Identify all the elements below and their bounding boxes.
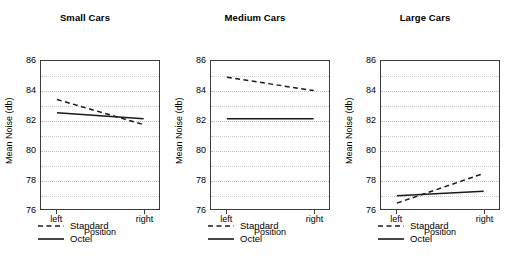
legend: StandardOctel xyxy=(206,219,336,245)
legend-item-octel: Octel xyxy=(206,232,336,245)
series-line-standard xyxy=(227,77,314,90)
plot-wrapper: Mean Noise (db)767880828486leftrightPosi… xyxy=(170,30,340,190)
panel-medium-cars: Medium CarsMean Noise (db)767880828486le… xyxy=(170,0,340,261)
legend-item-standard: Standard xyxy=(376,219,506,232)
plot-wrapper: Mean Noise (db)767880828486leftrightPosi… xyxy=(340,30,510,190)
panel-large-cars: Large CarsMean Noise (db)767880828486lef… xyxy=(340,0,510,261)
y-axis-tick-labels: 767880828486 xyxy=(16,60,38,210)
y-tick-label: 80 xyxy=(366,145,376,155)
plot-area xyxy=(210,60,330,210)
panel-title: Small Cars xyxy=(0,12,170,23)
legend-swatch-dashed xyxy=(376,221,406,231)
legend-label: Standard xyxy=(406,220,449,231)
legend-label: Octel xyxy=(236,233,262,244)
series-line-standard xyxy=(397,173,484,203)
legend-swatch-solid xyxy=(376,234,406,244)
series-lines xyxy=(381,61,499,209)
y-tick-label: 80 xyxy=(196,145,206,155)
y-tick-label: 82 xyxy=(26,115,36,125)
legend-label: Octel xyxy=(406,233,432,244)
y-tick-label: 82 xyxy=(196,115,206,125)
legend-item-standard: Standard xyxy=(36,219,166,232)
y-tick-label: 86 xyxy=(196,55,206,65)
legend-swatch-solid xyxy=(36,234,66,244)
y-tick-label: 76 xyxy=(196,205,206,215)
panel-title: Large Cars xyxy=(340,12,510,23)
y-tick-label: 84 xyxy=(26,85,36,95)
y-tick-label: 82 xyxy=(366,115,376,125)
y-tick-label: 78 xyxy=(366,175,376,185)
plot-wrapper: Mean Noise (db)767880828486leftrightPosi… xyxy=(0,30,170,190)
y-axis-tick-labels: 767880828486 xyxy=(356,60,378,210)
interaction-plot-figure: Small CarsMean Noise (db)767880828486lef… xyxy=(0,0,510,261)
y-tick-label: 78 xyxy=(26,175,36,185)
plot-area xyxy=(380,60,500,210)
legend: StandardOctel xyxy=(376,219,506,245)
series-line-octel xyxy=(397,191,484,195)
y-tick-label: 76 xyxy=(366,205,376,215)
series-lines xyxy=(41,61,159,209)
legend-item-octel: Octel xyxy=(36,232,166,245)
y-axis-title: Mean Noise (db) xyxy=(172,76,186,186)
series-line-standard xyxy=(57,99,144,124)
panel-small-cars: Small CarsMean Noise (db)767880828486lef… xyxy=(0,0,170,261)
legend: StandardOctel xyxy=(36,219,166,245)
y-tick-label: 86 xyxy=(366,55,376,65)
y-tick-label: 86 xyxy=(26,55,36,65)
panel-title: Medium Cars xyxy=(170,12,340,23)
legend-label: Standard xyxy=(236,220,279,231)
legend-item-octel: Octel xyxy=(376,232,506,245)
y-tick-label: 76 xyxy=(26,205,36,215)
legend-item-standard: Standard xyxy=(206,219,336,232)
y-tick-label: 78 xyxy=(196,175,206,185)
legend-swatch-solid xyxy=(206,234,236,244)
y-tick-label: 84 xyxy=(196,85,206,95)
y-axis-title: Mean Noise (db) xyxy=(342,76,356,186)
y-tick-label: 84 xyxy=(366,85,376,95)
y-axis-tick-labels: 767880828486 xyxy=(186,60,208,210)
y-tick-label: 80 xyxy=(26,145,36,155)
series-lines xyxy=(211,61,329,209)
legend-label: Standard xyxy=(66,220,109,231)
y-axis-title: Mean Noise (db) xyxy=(2,76,16,186)
series-line-octel xyxy=(57,113,144,119)
legend-label: Octel xyxy=(66,233,92,244)
legend-swatch-dashed xyxy=(206,221,236,231)
plot-area xyxy=(40,60,160,210)
legend-swatch-dashed xyxy=(36,221,66,231)
